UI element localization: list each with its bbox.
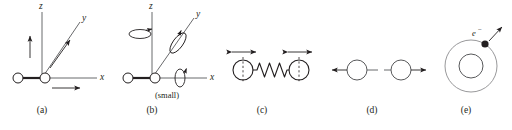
panel-e-electron <box>481 40 488 47</box>
panel-caption-a: (a) <box>22 105 62 115</box>
panel-b-atom-left <box>123 73 133 83</box>
panel-caption-b: (b) <box>132 105 172 115</box>
panel-e-electron-orbit <box>445 40 497 92</box>
panel-a-group: z x y <box>13 1 105 88</box>
panel-a-y-axis <box>42 22 80 78</box>
physics-degrees-of-freedom-figure: z x y z x <box>0 0 512 130</box>
panel-caption-e: (e) <box>446 105 486 115</box>
panel-c-spring <box>253 63 289 77</box>
panel-b-x-axis-label: x <box>209 72 215 82</box>
panel-b-rotation-arrow-z <box>129 29 152 39</box>
panel-a-atom-right <box>40 73 50 83</box>
panel-e-nucleus <box>459 54 483 78</box>
panel-b-atom-right <box>150 73 160 83</box>
panel-b-small-note: (small) <box>155 90 179 100</box>
panel-caption-c: (c) <box>242 105 282 115</box>
panel-d-atom-right <box>391 60 411 80</box>
panel-e-velocity-arrow <box>489 27 502 41</box>
panel-e-electron-charge-superscript: − <box>478 26 482 34</box>
panel-a-z-axis-label: z <box>38 1 43 11</box>
panel-c-group <box>232 52 312 83</box>
panel-b-rotation-arrow-y <box>167 30 189 55</box>
panel-b-group: z x y <box>123 1 215 100</box>
panel-a-y-axis-label: y <box>81 13 87 23</box>
panel-b-z-axis-label: z <box>148 1 153 11</box>
panel-e-electron-label: e <box>472 28 476 38</box>
panel-d-atom-left <box>347 60 367 80</box>
panel-b-y-axis <box>152 18 194 78</box>
panel-d-group <box>332 60 426 80</box>
panel-a-x-axis-label: x <box>99 72 105 82</box>
panel-e-group: e − <box>445 26 502 92</box>
panel-a-translation-arrow-y <box>50 40 70 68</box>
panel-b-y-axis-label: y <box>195 9 201 19</box>
panel-a-atom-left <box>13 73 23 83</box>
panel-caption-d: (d) <box>352 105 392 115</box>
